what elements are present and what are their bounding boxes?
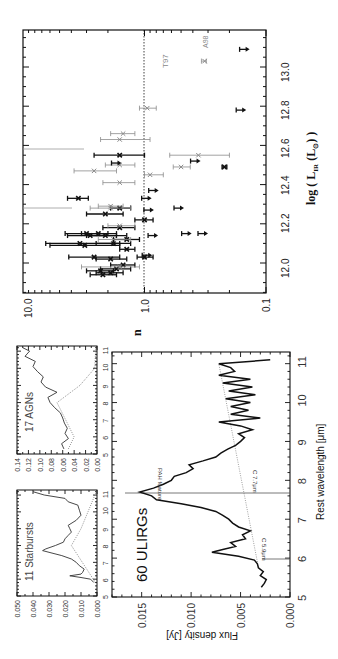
ulirg-continuum-line [219, 364, 258, 562]
ulirg-title: 60 ULIRGs [133, 508, 150, 582]
flux-tick-label: 0.020 [62, 600, 69, 618]
arrow-head-icon [197, 159, 201, 164]
wavelength-tick-label: 8 [102, 402, 109, 406]
wavelength-tick-label: 7 [102, 561, 109, 565]
c77-label: C 7.7μm [252, 470, 258, 493]
logl-tick-12.2: 12.2 [280, 213, 291, 233]
arrow-head-icon [150, 208, 154, 213]
flux-tick-label: 0.005 [236, 603, 247, 628]
ulirg-panel: 60 ULIRGs PAH feature C 7.7μm C 5.9μm 56… [112, 352, 326, 641]
wavelength-tick-label: 10 [102, 363, 109, 371]
arrow-head-icon [242, 108, 246, 113]
logl-axis-label: log ( LIR (L⊙) ) [304, 132, 320, 205]
arrow-head-icon [180, 206, 184, 211]
scatter-ticks [23, 30, 266, 293]
starburst-panel: 11 Starbursts 5678910110.0500.0400.0300.… [14, 490, 109, 618]
scatter-plot: 10.0 1.0 0.1 n 12.0 12.2 12.4 12.6 12.8 … [23, 30, 320, 336]
flux-tick-label: 0.040 [30, 600, 37, 618]
agn-continuum-line [57, 346, 96, 449]
wavelength-tick-label: 9 [102, 528, 109, 532]
n-tick-10: 10.0 [23, 298, 34, 318]
n-tick-01: 0.1 [261, 298, 272, 312]
flux-tick-label: 0.000 [285, 603, 296, 628]
logl-tick-12.4: 12.4 [280, 175, 291, 195]
wavelength-tick-label: 11 [102, 491, 109, 498]
t97-label: T97 [161, 54, 170, 68]
logl-tick-12.8: 12.8 [280, 100, 291, 120]
flux-tick-label: 0.000 [94, 600, 101, 618]
flux-tick-label: 0.12 [25, 458, 32, 472]
scatter-points [46, 47, 250, 277]
flux-tick-label: 0.030 [46, 600, 53, 618]
n-axis-label: n [130, 329, 144, 336]
starburst-title: 11 Starbursts [24, 522, 35, 581]
flux-tick-label: 0.00 [94, 458, 101, 472]
wavelength-tick-label: 11 [296, 356, 308, 367]
flux-tick-label: 0.14 [14, 458, 21, 472]
wavelength-tick-label: 7 [296, 517, 308, 523]
wavelength-tick-label: 10 [102, 507, 109, 515]
scatter-frame [23, 30, 266, 293]
arrow-head-icon [188, 231, 192, 236]
logl-tick-13.0: 13.0 [280, 62, 291, 82]
flux-tick-label: 0.015 [137, 603, 148, 628]
wavelength-tick-label: 11 [102, 347, 109, 354]
wavelength-tick-label: 6 [102, 436, 109, 440]
figure: 10.0 1.0 0.1 n 12.0 12.2 12.4 12.6 12.8 … [0, 0, 338, 659]
c59-label: C 5.9μm [261, 538, 267, 561]
flux-tick-label: 0.050 [14, 600, 21, 618]
arrow-head-icon [246, 47, 250, 52]
flux-axis-label: Flux density [Jy] [166, 630, 238, 641]
logl-tick-12.6: 12.6 [280, 138, 291, 158]
flux-tick-label: 0.04 [71, 458, 78, 472]
wavelength-tick-label: 8 [296, 478, 308, 484]
wavelength-tick-label: 5 [102, 595, 109, 599]
a98-label: A98 [202, 35, 209, 48]
flux-tick-label: 0.010 [186, 603, 197, 628]
pah-feature-label: PAH feature [157, 468, 163, 501]
wavelength-tick-label: 9 [296, 439, 308, 445]
agn-title: 17 AGNs [24, 392, 35, 432]
n-tick-1: 1.0 [140, 299, 151, 313]
wavelength-tick-label: 5 [296, 595, 308, 601]
flux-tick-label: 0.06 [60, 458, 67, 472]
agn-panel: 17 AGNs 5678910110.140.120.100.080.060.0… [14, 346, 109, 472]
flux-tick-label: 0.08 [48, 458, 55, 472]
wavelength-tick-label: 5 [102, 453, 109, 457]
starburst-spectrum-line [33, 492, 94, 583]
logl-tick-12.0: 12.0 [280, 258, 291, 278]
flux-tick-label: 0.010 [78, 600, 85, 618]
wavelength-tick-label: 9 [102, 384, 109, 388]
wavelength-tick-label: 7 [102, 419, 109, 423]
wavelength-tick-label: 6 [102, 578, 109, 582]
arrow-head-icon [204, 231, 208, 236]
wavelength-tick-label: 8 [102, 545, 109, 549]
wavelength-axis-label: Rest wavelength [μm] [315, 423, 326, 520]
wavelength-tick-label: 6 [296, 556, 308, 562]
flux-tick-label: 0.10 [37, 458, 44, 472]
arrow-head-icon [155, 188, 159, 193]
arrow-head-icon [148, 196, 152, 201]
flux-tick-label: 0.02 [83, 458, 90, 472]
wavelength-tick-label: 10 [296, 394, 308, 406]
arrow-head-icon [154, 233, 158, 238]
